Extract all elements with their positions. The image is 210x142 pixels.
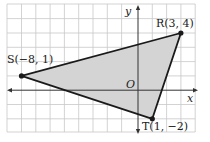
- coordinate-plane: y x O R(3, 4) S(−8, 1) T(1, −2): [0, 0, 210, 142]
- label-T: T(1, −2): [142, 120, 188, 133]
- label-R: R(3, 4): [156, 17, 194, 30]
- y-axis-label: y: [124, 5, 132, 18]
- x-axis-label: x: [187, 92, 194, 105]
- point-R: [178, 30, 183, 35]
- label-S: S(−8, 1): [7, 53, 53, 66]
- point-S: [19, 73, 24, 78]
- origin-label: O: [126, 78, 135, 91]
